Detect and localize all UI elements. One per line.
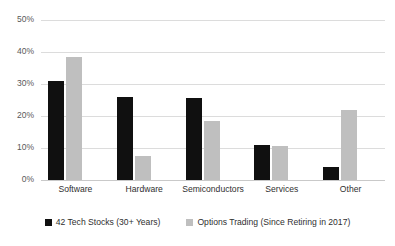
y-axis-tick-label: 0% [0, 175, 34, 184]
bars-layer [41, 20, 385, 180]
legend-item: 42 Tech Stocks (30+ Years) [45, 217, 161, 227]
y-axis-tick-label: 20% [0, 111, 34, 120]
bar [323, 167, 339, 180]
bar [135, 156, 151, 180]
bar-group [316, 20, 385, 180]
bar-group [179, 20, 248, 180]
legend-label: 42 Tech Stocks (30+ Years) [56, 217, 161, 227]
legend-swatch-icon [45, 219, 52, 226]
bar [186, 98, 202, 180]
legend-label: Options Trading (Since Retiring in 2017) [197, 217, 350, 227]
gridline [41, 180, 385, 181]
bar [272, 146, 288, 180]
chart-title [0, 0, 395, 5]
y-axis-tick-label: 10% [0, 143, 34, 152]
chart-legend: 42 Tech Stocks (30+ Years)Options Tradin… [0, 213, 395, 231]
bar [117, 97, 133, 180]
legend-item: Options Trading (Since Retiring in 2017) [186, 217, 350, 227]
bar [254, 145, 270, 180]
bar-chart: 50%40%30%20%10%0% SoftwareHardwareSemico… [0, 0, 395, 246]
bar [341, 110, 357, 180]
x-axis-category-labels: SoftwareHardwareSemiconductorsServicesOt… [41, 183, 385, 199]
x-axis-label-hardware: Hardware [110, 183, 179, 195]
y-axis-tick-label: 30% [0, 79, 34, 88]
bar-group [41, 20, 110, 180]
bar-group [247, 20, 316, 180]
x-axis-label-other: Other [316, 183, 385, 195]
y-axis-tick-label: 50% [0, 15, 34, 24]
bar [48, 81, 64, 180]
x-axis-label-services: Services [247, 183, 316, 195]
x-axis-label-software: Software [41, 183, 110, 195]
bar-group [110, 20, 179, 180]
y-axis-tick-label: 40% [0, 47, 34, 56]
x-axis-label-semiconductors: Semiconductors [179, 183, 248, 195]
bar [204, 121, 220, 180]
bar [66, 57, 82, 180]
legend-swatch-icon [186, 219, 193, 226]
